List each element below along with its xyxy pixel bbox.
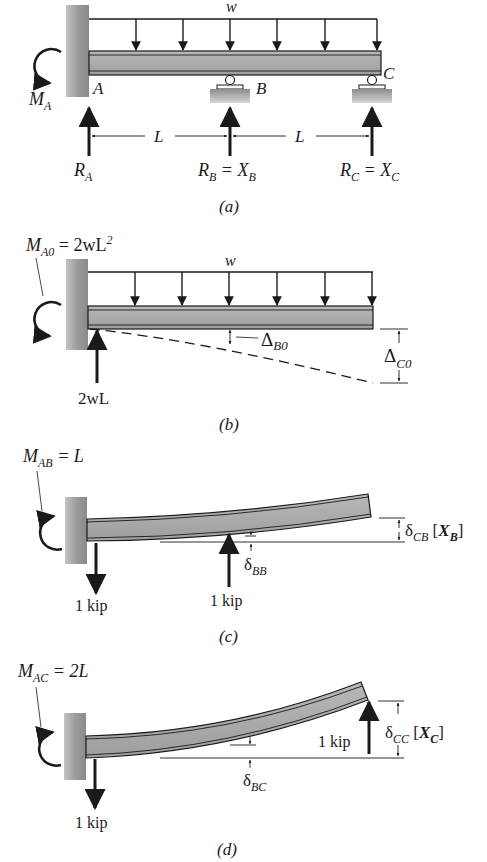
moment-arrow-icon [34,49,61,83]
point-c-label: C [383,64,395,83]
beam [89,51,381,75]
reaction-label-ra: RA [73,160,93,184]
point-b-label: B [256,79,267,98]
point-a-label: A [92,79,104,98]
wall-force-label: 1 kip [75,597,107,615]
wall-force-label: 1 kip [75,814,107,832]
moment-label-mab: MAB = L [22,446,84,470]
caption-d: (d) [217,840,237,859]
applied-force-label: 1 kip [210,592,242,610]
distributed-load [88,272,373,305]
moment-leader-line [36,258,43,296]
panel-c: MAB = L 1 kip 1 kip δBB δCB [XB] (c) [22,446,463,646]
moment-label-ma0: MA0 = 2wL2 [25,233,113,259]
delta-cb-label: δCB [XB] [405,521,463,544]
fixed-wall [65,497,87,564]
moment-arrow-icon [40,516,62,550]
moment-arrow-icon [34,302,61,336]
panel-a: w MA A B C [28,0,400,216]
moment-leader-line [37,471,42,511]
delta-b0-label: ΔB0 [261,329,288,353]
delta-bc-label: δBC [243,771,267,794]
panel-b: MA0 = 2wL2 w 2wL ΔB0 [25,233,412,434]
indeterminate-beam-diagram: w MA A B C [0,0,487,862]
caption-c: (c) [219,627,238,646]
caption-b: (b) [219,415,239,434]
caption-a: (a) [219,197,239,216]
deflected-beam [87,494,371,541]
reaction-label-rc: RC = XC [339,160,400,184]
reaction-label-2wl: 2wL [78,389,109,408]
load-label-w: w [225,252,236,269]
moment-leader-line [36,687,41,727]
span-label-1: L [153,127,163,146]
moment-arrow-icon [39,732,61,766]
delta-c0-label: ΔC0 [384,345,412,371]
deflected-shape-dashed [90,329,373,383]
delta-b0-dimension [230,330,258,344]
fixed-wall [66,5,89,97]
roller-support-b [210,76,250,104]
fixed-wall [64,713,86,780]
moment-label-ma: MA [28,89,52,113]
fixed-wall [66,259,88,350]
reaction-label-rb: RB = XB [197,160,257,184]
applied-force-label: 1 kip [318,733,350,751]
beam [88,306,373,329]
delta-cc-label: δCC [XC] [385,723,444,746]
delta-bb-label: δBB [244,555,267,578]
distributed-load [89,19,377,50]
moment-label-mac: MAC = 2L [17,661,89,685]
load-label-w: w [226,0,237,15]
panel-d: MAC = 2L 1 kip 1 kip δBC δCC [XC] (d) [17,661,444,859]
span-label-2: L [294,127,304,146]
